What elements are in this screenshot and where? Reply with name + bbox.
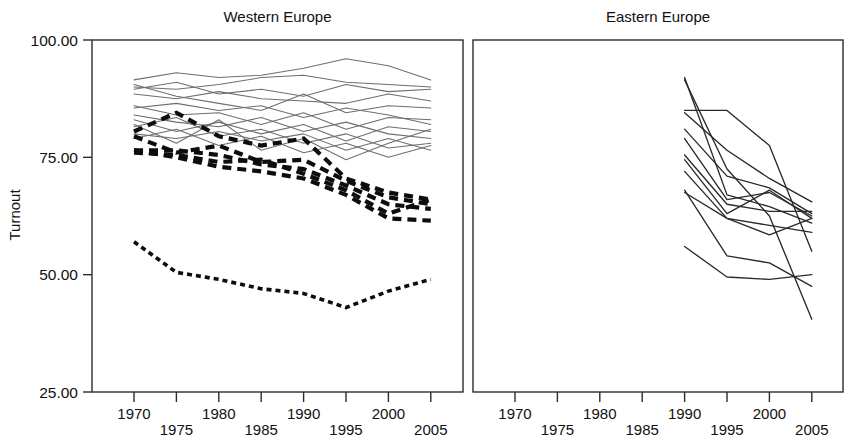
x-tick-label: 1985 <box>245 421 278 438</box>
data-series-line <box>685 80 812 319</box>
x-tick-label: 1975 <box>160 421 193 438</box>
panel-eastern-europe: Eastern Europe19701975198019851990199520… <box>473 8 843 438</box>
series-layer <box>685 78 812 320</box>
turnout-line-chart-svg: Turnout 100.0075.0050.0025.00 Western Eu… <box>0 0 859 446</box>
x-tick-label: 2000 <box>372 405 405 422</box>
x-tick-label: 1995 <box>710 421 743 438</box>
x-tick-label: 1995 <box>329 421 362 438</box>
x-tick-label: 1985 <box>626 421 659 438</box>
x-tick-label: 1980 <box>583 405 616 422</box>
y-axis-title-group: Turnout <box>6 189 23 241</box>
panel-frame <box>473 40 843 392</box>
x-tick-label: 2000 <box>753 405 786 422</box>
data-series-line <box>134 106 431 129</box>
x-tick-label: 2005 <box>414 421 447 438</box>
series-layer <box>134 59 431 308</box>
x-tick-label: 1975 <box>541 421 574 438</box>
data-series-line <box>134 92 431 104</box>
data-series-line <box>134 75 431 89</box>
y-tick-label: 75.00 <box>39 149 78 166</box>
x-tick-label: 1970 <box>498 405 531 422</box>
panel-frame <box>92 40 463 392</box>
panel-title: Eastern Europe <box>606 8 710 25</box>
x-tick-label: 1970 <box>117 405 150 422</box>
panel-title: Western Europe <box>223 8 331 25</box>
panel-western-europe: Western Europe19701975198019851990199520… <box>92 8 463 438</box>
data-series-line <box>134 242 431 308</box>
x-tick-label: 2005 <box>795 421 828 438</box>
data-series-line <box>134 136 431 204</box>
y-axis: 100.0075.0050.0025.00 <box>31 32 92 401</box>
x-tick-label: 1990 <box>668 405 701 422</box>
chart-figure: Turnout 100.0075.0050.0025.00 Western Eu… <box>0 0 859 446</box>
y-tick-label: 50.00 <box>39 266 78 283</box>
y-tick-label: 100.00 <box>31 32 79 49</box>
y-axis-title: Turnout <box>6 189 23 241</box>
data-series-line <box>685 193 812 235</box>
x-tick-label: 1990 <box>287 405 320 422</box>
x-tick-label: 1980 <box>202 405 235 422</box>
y-tick-label: 25.00 <box>39 384 78 401</box>
data-series-line <box>685 160 812 219</box>
data-series-line <box>685 113 812 202</box>
